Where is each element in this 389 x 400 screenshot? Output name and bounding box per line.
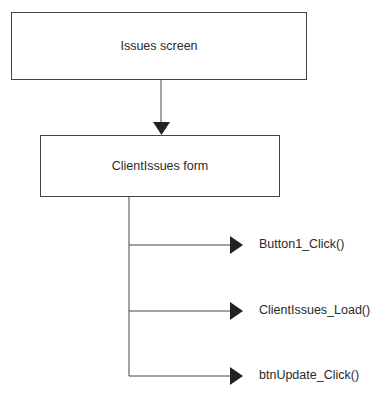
arrow-right-icon	[230, 236, 243, 254]
arrow-right-icon	[230, 367, 243, 385]
node-label: Issues screen	[120, 39, 197, 53]
event-label-button1-click: Button1_Click()	[259, 237, 344, 251]
node-issues-screen: Issues screen	[11, 12, 307, 80]
arrow-down-icon	[153, 122, 170, 135]
arrow-right-icon	[230, 302, 243, 320]
node-clientissues-form: ClientIssues form	[40, 135, 280, 197]
event-label-btnupdate-click: btnUpdate_Click()	[259, 368, 359, 382]
event-label-clientissues-load: ClientIssues_Load()	[259, 303, 370, 317]
node-label: ClientIssues form	[112, 159, 209, 173]
